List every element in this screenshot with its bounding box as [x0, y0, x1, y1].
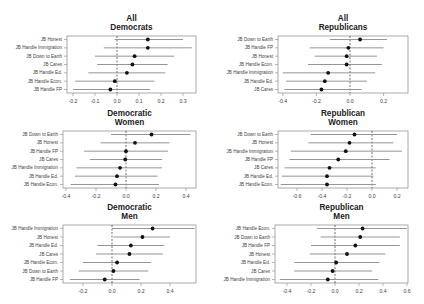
point-estimate: [150, 133, 154, 137]
coefficient-row: JB Handle Ed.: [33, 70, 166, 75]
x-tick-label: 0.2: [152, 193, 159, 199]
point-estimate: [346, 46, 350, 50]
point-estimate: [113, 79, 117, 83]
row-label: JB Handle Econ.: [239, 182, 273, 187]
point-estimate: [124, 149, 128, 153]
coefficient-row: JB Handle Econ.: [24, 260, 151, 265]
x-tick-label: -0.1: [91, 98, 100, 104]
x-tick-label: 0.6: [403, 288, 410, 294]
coefficient-plot-figure: AllDemocratsJB HonestJB Handle Immigrati…: [0, 0, 424, 304]
panel-democratic-women: DemocraticWomenJB Down to EarthJB Honest…: [12, 109, 196, 199]
panel-all-republicans: AllRepublicansJB Down to EarthJB Handle …: [227, 14, 408, 104]
coefficient-row: JB Handle Immigration: [227, 149, 402, 154]
x-tick-label: 0.2: [157, 98, 164, 104]
panel-title: Democratic: [107, 109, 152, 118]
coefficient-row: JB Handle Ed.: [244, 174, 374, 179]
row-label: JB Down to Earth: [237, 132, 273, 137]
point-estimate: [353, 133, 357, 137]
row-label: JB Handle Econ.: [24, 182, 58, 187]
point-estimate: [112, 269, 116, 273]
coefficient-row: JB Handle Immigration: [16, 45, 192, 50]
coefficient-row: JB Down to Earth: [234, 235, 400, 240]
row-label: JB Handle Ed.: [244, 174, 273, 179]
point-estimate: [361, 227, 365, 231]
x-tick-label: 0.1: [135, 98, 142, 104]
point-estimate: [331, 269, 335, 273]
point-estimate: [133, 54, 137, 58]
panel-title: All: [338, 14, 348, 23]
row-label: JB Handle Immigration: [12, 226, 59, 231]
row-label: JB Handle Ed.: [29, 243, 58, 248]
x-tick-label: 0.2: [393, 193, 400, 199]
panel-title: Women: [328, 118, 357, 127]
coefficient-row: JB Handle Econ.: [239, 62, 382, 67]
coefficient-row: JB Honest: [37, 140, 170, 145]
row-label: JB Handle Econ.: [28, 79, 62, 84]
point-estimate: [334, 261, 338, 265]
coefficient-row: JB Cares: [254, 87, 362, 92]
row-label: JB Cares: [39, 252, 59, 257]
coefficient-row: JB Handle Immigration: [224, 277, 379, 282]
point-estimate: [123, 158, 127, 162]
panel-democratic-men: DemocraticMenJB Handle ImmigrationJB Hon…: [12, 203, 196, 294]
point-estimate: [129, 244, 133, 248]
point-estimate: [345, 63, 349, 67]
point-estimate: [125, 71, 129, 75]
row-label: JB Handle Ed.: [241, 260, 270, 265]
row-label: JB Down to Earth: [237, 37, 273, 42]
x-tick-label: -0.2: [312, 98, 321, 104]
point-estimate: [354, 244, 358, 248]
point-estimate: [103, 278, 107, 282]
coefficient-row: JB Handle Econ.: [236, 226, 407, 231]
x-tick-label: 0.0: [113, 98, 120, 104]
row-label: JB Handle Immigration: [16, 45, 63, 50]
panel-title: Republican: [321, 109, 365, 118]
row-label: JB Handle Ed.: [29, 174, 58, 179]
panel-title: Men: [121, 212, 137, 221]
coefficient-row: JB Cares: [39, 252, 163, 257]
x-tick-label: 0.4: [379, 288, 386, 294]
point-estimate: [358, 38, 362, 42]
point-estimate: [131, 63, 135, 67]
panel-title: Republican: [319, 203, 363, 212]
row-label: JB Handle FP: [30, 149, 58, 154]
point-estimate: [325, 183, 329, 187]
x-tick-label: -0.4: [318, 193, 327, 199]
row-label: JB Honest: [249, 252, 271, 257]
coefficient-row: JB Handle Econ.: [28, 79, 155, 84]
x-tick-label: 0.0: [346, 98, 353, 104]
point-estimate: [109, 88, 113, 92]
row-label: JB Honest: [252, 54, 274, 59]
row-label: JB Handle FP: [242, 243, 270, 248]
point-estimate: [115, 261, 119, 265]
row-label: JB Handle FP: [30, 277, 58, 282]
x-tick-label: 0.4: [166, 288, 173, 294]
x-tick-label: -0.2: [79, 288, 88, 294]
coefficient-row: JB Handle Ed.: [244, 79, 367, 84]
row-label: JB Handle FP: [245, 45, 273, 50]
row-label: JB Cares: [254, 165, 274, 170]
coefficient-row: JB Down to Earth: [22, 132, 190, 137]
point-estimate: [345, 252, 349, 256]
panel-title: All: [126, 14, 136, 23]
row-label: JB Handle FP: [34, 87, 62, 92]
point-estimate: [141, 235, 145, 239]
coefficient-row: JB Handle FP: [245, 157, 390, 162]
coefficient-row: JB Honest: [249, 252, 386, 257]
coefficient-row: JB Cares: [43, 62, 168, 67]
panel-republican-women: RepublicanWomenJB Down to EarthJB Honest…: [227, 109, 408, 199]
panel-title: Men: [333, 212, 349, 221]
coefficient-row: JB Honest: [252, 54, 377, 59]
x-tick-label: 0.0: [331, 288, 338, 294]
row-label: JB Handle Ed.: [33, 70, 62, 75]
coefficient-row: JB Down to Earth: [22, 269, 148, 274]
panel-title: Republicans: [319, 23, 368, 32]
coefficient-row: JB Handle FP: [30, 277, 140, 282]
point-estimate: [127, 252, 131, 256]
point-estimate: [328, 166, 332, 170]
x-tick-label: -0.4: [283, 288, 292, 294]
coefficient-row: JB Handle Econ.: [239, 182, 376, 187]
panel-all-democrats: AllDemocratsJB HonestJB Handle Immigrati…: [16, 14, 196, 104]
x-tick-label: 0.0: [368, 193, 375, 199]
row-label: JB Handle Immigration: [224, 277, 271, 282]
